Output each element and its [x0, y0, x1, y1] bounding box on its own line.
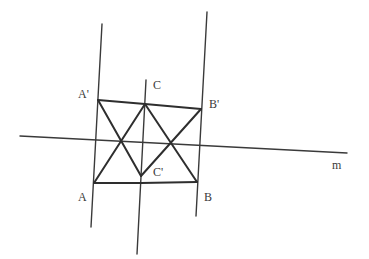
segment-a-b	[94, 182, 197, 183]
left-vertical-line	[91, 24, 102, 227]
label-m: m	[332, 158, 342, 172]
label-a: A	[78, 190, 87, 204]
triangle-a-prime-b-prime-c-prime	[98, 100, 201, 109]
geometry-diagram: A' C B' A C' B m	[0, 0, 369, 259]
label-a-prime: A'	[78, 87, 89, 101]
line-m	[20, 136, 347, 153]
segment-a-prime-c-prime	[98, 100, 141, 176]
label-c-prime: C'	[153, 165, 163, 179]
label-b-prime: B'	[209, 97, 219, 111]
label-b: B	[204, 190, 212, 204]
label-c: C	[153, 78, 161, 92]
